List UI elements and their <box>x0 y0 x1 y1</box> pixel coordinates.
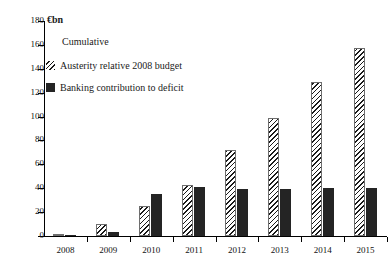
bar-banking <box>108 232 119 236</box>
y-tick-label: 80 <box>10 135 44 144</box>
x-tick-label: 2010 <box>131 245 171 255</box>
x-tick-mark <box>130 237 131 242</box>
y-tick-label: 100 <box>10 112 44 121</box>
x-tick-label: 2009 <box>88 245 128 255</box>
bar-austerity <box>182 185 193 236</box>
y-tick-label: 140 <box>10 64 44 73</box>
x-tick-label: 2011 <box>174 245 214 255</box>
bar-banking <box>237 189 248 236</box>
bar-group <box>173 21 216 236</box>
bar-austerity <box>225 150 236 236</box>
x-tick-label: 2014 <box>303 245 343 255</box>
bar-austerity <box>53 234 64 236</box>
bar-austerity <box>354 48 365 236</box>
bar-banking <box>194 187 205 236</box>
x-tick-label: 2012 <box>217 245 257 255</box>
bar-banking <box>280 189 291 236</box>
x-tick-label: 2008 <box>45 245 85 255</box>
bar-group <box>216 21 259 236</box>
bar-group <box>301 21 344 236</box>
x-tick-mark <box>301 237 302 242</box>
y-tick-label: 120 <box>10 88 44 97</box>
bar-banking <box>151 194 162 236</box>
bar-austerity <box>139 206 150 236</box>
y-tick-label: 160 <box>10 40 44 49</box>
bar-austerity <box>96 224 107 236</box>
x-tick-label: 2015 <box>346 245 386 255</box>
x-tick-mark <box>216 237 217 242</box>
bar-group <box>44 21 87 236</box>
bar-austerity <box>311 82 322 236</box>
bar-austerity <box>268 118 279 236</box>
x-tick-label: 2013 <box>260 245 300 255</box>
bar-group <box>344 21 387 236</box>
y-tick-label: 60 <box>10 159 44 168</box>
bar-banking <box>366 188 377 236</box>
bar-banking <box>323 188 334 236</box>
y-tick-label: 180 <box>10 16 44 25</box>
x-tick-mark <box>344 237 345 242</box>
y-tick-label: 0 <box>10 231 44 240</box>
x-tick-mark <box>87 237 88 242</box>
x-tick-mark <box>258 237 259 242</box>
bar-banking <box>65 235 76 236</box>
x-tick-mark <box>173 237 174 242</box>
bar-group <box>87 21 130 236</box>
x-tick-mark <box>387 237 388 242</box>
y-tick-label: 20 <box>10 207 44 216</box>
chart-container: €bn Cumulative Austerity relative 2008 b… <box>0 0 392 267</box>
y-tick-label: 40 <box>10 183 44 192</box>
bar-group <box>258 21 301 236</box>
bar-group <box>130 21 173 236</box>
